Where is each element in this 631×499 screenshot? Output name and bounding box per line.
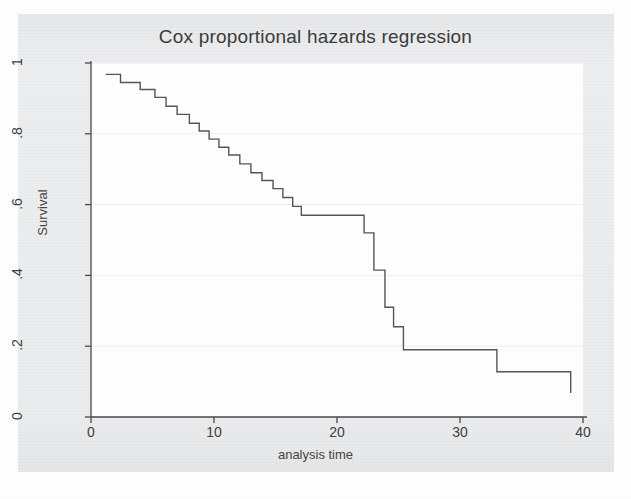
gridlines	[91, 63, 583, 417]
survival-step-curve	[106, 74, 571, 393]
survival-plot	[0, 0, 631, 499]
axis-lines	[91, 61, 587, 417]
figure-container: Cox proportional hazards regression Surv…	[0, 0, 631, 499]
axis-tick-marks	[85, 63, 583, 423]
